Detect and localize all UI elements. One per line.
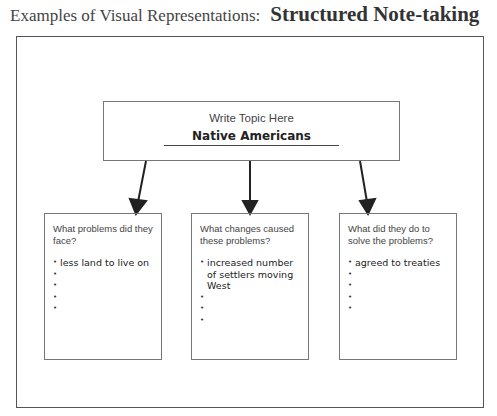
note-bullet bbox=[348, 269, 448, 281]
arrow-center-icon bbox=[243, 161, 257, 214]
note-bullet bbox=[200, 303, 300, 315]
arrow-left-icon bbox=[130, 161, 146, 214]
note-box-problems: What problems did they face? less land t… bbox=[44, 213, 162, 360]
note-box-solutions: What did they do to solve the problems? … bbox=[339, 213, 457, 360]
note-bullet bbox=[200, 292, 300, 304]
note-bullet bbox=[348, 292, 448, 304]
note-bullet bbox=[53, 280, 153, 292]
note-bullet bbox=[53, 292, 153, 304]
note-box-changes: What changes caused these problems? incr… bbox=[191, 213, 309, 360]
note-question: What changes caused these problems? bbox=[200, 223, 300, 247]
note-bullet bbox=[200, 315, 300, 327]
note-bullet: agreed to treaties bbox=[348, 257, 448, 269]
note-bullets: agreed to treaties bbox=[348, 257, 448, 315]
note-question: What problems did they face? bbox=[53, 223, 153, 247]
note-bullet bbox=[53, 303, 153, 315]
note-bullets: increased number of settlers moving West bbox=[200, 257, 300, 326]
note-bullet bbox=[348, 303, 448, 315]
note-question: What did they do to solve the problems? bbox=[348, 223, 448, 247]
note-bullet bbox=[348, 280, 448, 292]
note-bullet: less land to live on bbox=[53, 257, 153, 269]
arrow-right-icon bbox=[360, 161, 375, 214]
note-bullet: increased number of settlers moving West bbox=[200, 257, 300, 292]
note-bullet bbox=[53, 269, 153, 281]
note-bullets: less land to live on bbox=[53, 257, 153, 315]
